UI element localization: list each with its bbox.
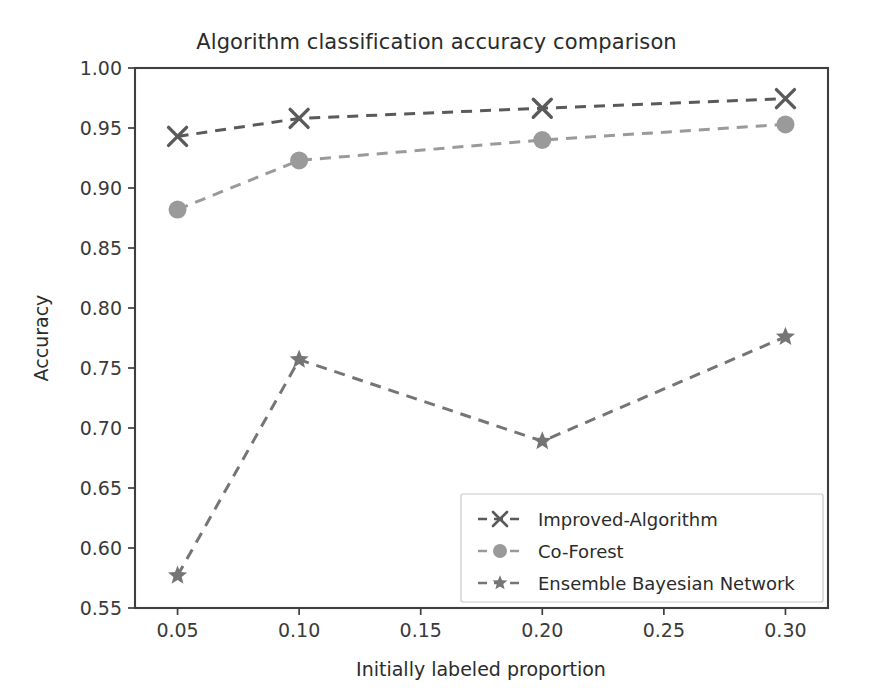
data-point-marker-circle bbox=[533, 131, 551, 149]
data-point-marker-circle bbox=[290, 151, 308, 169]
x-tick-label: 0.10 bbox=[278, 619, 320, 641]
y-tick-label: 0.95 bbox=[80, 117, 122, 139]
legend-label: Co-Forest bbox=[538, 541, 624, 562]
data-point-marker-circle bbox=[493, 544, 507, 558]
y-tick-label: 0.55 bbox=[80, 597, 122, 619]
y-tick-label: 0.65 bbox=[80, 477, 122, 499]
y-tick-label: 0.90 bbox=[80, 177, 122, 199]
chart-legend[interactable]: Improved-AlgorithmCo-ForestEnsemble Baye… bbox=[461, 494, 823, 602]
data-point-marker-circle bbox=[169, 201, 187, 219]
y-axis-title: Accuracy bbox=[30, 295, 52, 382]
figure-canvas: Algorithm classification accuracy compar… bbox=[0, 0, 873, 698]
x-tick-label: 0.05 bbox=[156, 619, 198, 641]
legend-label: Improved-Algorithm bbox=[538, 509, 718, 530]
legend-label: Ensemble Bayesian Network bbox=[538, 573, 795, 594]
line-chart-plot: 0.550.600.650.700.750.800.850.900.951.00… bbox=[0, 0, 873, 698]
x-tick-label: 0.20 bbox=[521, 619, 563, 641]
x-axis-ticks: 0.050.100.150.200.250.30 bbox=[156, 608, 806, 641]
y-tick-label: 1.00 bbox=[80, 57, 122, 79]
x-tick-label: 0.15 bbox=[400, 619, 442, 641]
y-axis-ticks: 0.550.600.650.700.750.800.850.900.951.00 bbox=[80, 57, 135, 619]
data-point-marker-circle bbox=[776, 115, 794, 133]
y-tick-label: 0.85 bbox=[80, 237, 122, 259]
x-tick-label: 0.25 bbox=[643, 619, 685, 641]
y-tick-label: 0.80 bbox=[80, 297, 122, 319]
x-axis-title: Initially labeled proportion bbox=[356, 658, 606, 680]
y-tick-label: 0.60 bbox=[80, 537, 122, 559]
x-tick-label: 0.30 bbox=[764, 619, 806, 641]
y-tick-label: 0.70 bbox=[80, 417, 122, 439]
y-tick-label: 0.75 bbox=[80, 357, 122, 379]
